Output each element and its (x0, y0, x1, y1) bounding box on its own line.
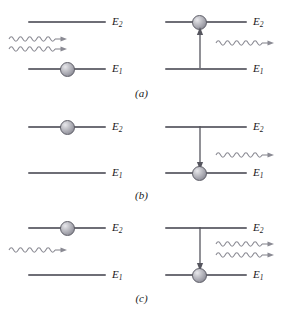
energy-level-label-e1-sub: 1 (119, 67, 123, 76)
energy-level-label-e2-sub: 2 (260, 226, 264, 235)
energy-level-label-e1: E1 (253, 63, 263, 74)
panel-a: E2 E1 (0, 0, 283, 104)
energy-level-label-e2-sub: 2 (260, 20, 264, 29)
energy-level-label-e1: E1 (112, 63, 122, 74)
electron-sphere (192, 268, 207, 283)
electron-sphere (192, 166, 207, 181)
energy-level-label-e2-text: E (253, 15, 260, 27)
incoming-photon-1 (8, 34, 68, 44)
panel-caption-a: (a) (0, 88, 283, 99)
electron-sphere (60, 62, 75, 77)
energy-level-label-e2-sub: 2 (260, 125, 264, 134)
energy-level-label-e1: E1 (112, 167, 122, 178)
energy-level-label-e2: E2 (253, 222, 263, 233)
energy-level-label-e1-text: E (253, 166, 260, 178)
outgoing-photon-1 (215, 150, 275, 160)
transition-arrow-down (195, 126, 205, 170)
energy-level-label-e2: E2 (253, 121, 263, 132)
energy-level-line-e2 (165, 126, 247, 128)
energy-level-transition-figure: E2 E1 (0, 0, 283, 309)
panel-caption-c: (c) (0, 293, 283, 304)
panel-b: E2 E1 E2 (0, 104, 283, 206)
energy-level-label-e1-text: E (112, 166, 119, 178)
electron-sphere (60, 120, 75, 135)
energy-level-label-e1: E1 (112, 269, 122, 280)
outgoing-photon-1 (215, 38, 275, 48)
outgoing-photon-1 (215, 239, 275, 249)
outgoing-photon-2 (215, 250, 275, 260)
energy-level-label-e2: E2 (112, 16, 122, 27)
energy-level-label-e1-sub: 1 (260, 273, 264, 282)
energy-level-label-e1: E1 (253, 167, 263, 178)
energy-level-label-e2-text: E (112, 120, 119, 132)
energy-level-label-e2: E2 (112, 222, 122, 233)
energy-level-label-e1-sub: 1 (260, 67, 264, 76)
energy-level-line-e1 (28, 274, 106, 276)
energy-level-label-e2-sub: 2 (119, 125, 123, 134)
energy-level-label-e2: E2 (112, 121, 122, 132)
energy-level-label-e2-text: E (253, 221, 260, 233)
panel-caption-b: (b) (0, 190, 283, 201)
energy-level-label-e1-text: E (112, 62, 119, 74)
energy-level-line-e1 (165, 68, 247, 70)
energy-level-label-e1-sub: 1 (119, 171, 123, 180)
energy-level-label-e1-sub: 1 (119, 273, 123, 282)
incoming-photon-2 (8, 44, 68, 54)
transition-arrow-up (195, 27, 205, 69)
energy-level-label-e1: E1 (253, 269, 263, 280)
energy-level-label-e1-text: E (253, 268, 260, 280)
energy-level-label-e2-text: E (253, 120, 260, 132)
energy-level-line-e2 (165, 227, 247, 229)
transition-arrow-down (195, 227, 205, 271)
energy-level-label-e2-text: E (112, 221, 119, 233)
electron-sphere (60, 221, 75, 236)
energy-level-line-e2 (28, 21, 106, 23)
energy-level-label-e2-sub: 2 (119, 226, 123, 235)
panel-c: E2 E1 E2 (0, 205, 283, 309)
energy-level-label-e2-text: E (112, 15, 119, 27)
energy-level-label-e1-sub: 1 (260, 171, 264, 180)
energy-level-label-e2: E2 (253, 16, 263, 27)
energy-level-line-e1 (28, 172, 106, 174)
energy-level-label-e2-sub: 2 (119, 20, 123, 29)
energy-level-label-e1-text: E (112, 268, 119, 280)
incoming-photon-1 (8, 245, 68, 255)
energy-level-label-e1-text: E (253, 62, 260, 74)
